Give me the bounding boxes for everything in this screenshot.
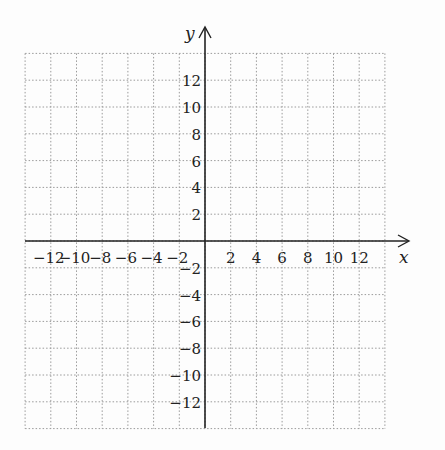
- y-tick-label: −12: [169, 394, 201, 412]
- x-tick-label: 4: [252, 249, 262, 267]
- y-tick-label: 8: [191, 126, 201, 144]
- x-tick-label: 2: [226, 249, 236, 267]
- y-tick-label: −6: [179, 313, 201, 331]
- y-tick-label: −4: [179, 287, 201, 305]
- coordinate-plane: x y −12−10−8−6−4−224681012 12108642−2−4−…: [0, 0, 445, 450]
- axes: x y: [25, 23, 409, 428]
- y-tick-label: −10: [169, 367, 201, 385]
- y-tick-label: 10: [182, 99, 201, 117]
- x-tick-label: −8: [89, 249, 111, 267]
- y-tick-label: 12: [182, 72, 201, 90]
- x-tick-label: −6: [115, 249, 137, 267]
- x-tick-label: 10: [324, 249, 343, 267]
- y-axis-label: y: [184, 23, 195, 43]
- y-tick-label: 4: [191, 179, 201, 197]
- y-tick-label: −2: [179, 260, 201, 278]
- x-tick-label: −4: [141, 249, 163, 267]
- y-tick-label: −8: [179, 340, 201, 358]
- x-axis-label: x: [399, 247, 409, 267]
- x-tick-label: 8: [303, 249, 313, 267]
- y-tick-label: 2: [191, 206, 201, 224]
- x-tick-label: −10: [59, 249, 91, 267]
- x-tick-label: 6: [277, 249, 287, 267]
- x-tick-label: 12: [350, 249, 369, 267]
- y-tick-labels: 12108642−2−4−6−8−10−12: [169, 72, 201, 412]
- y-tick-label: 6: [191, 153, 201, 171]
